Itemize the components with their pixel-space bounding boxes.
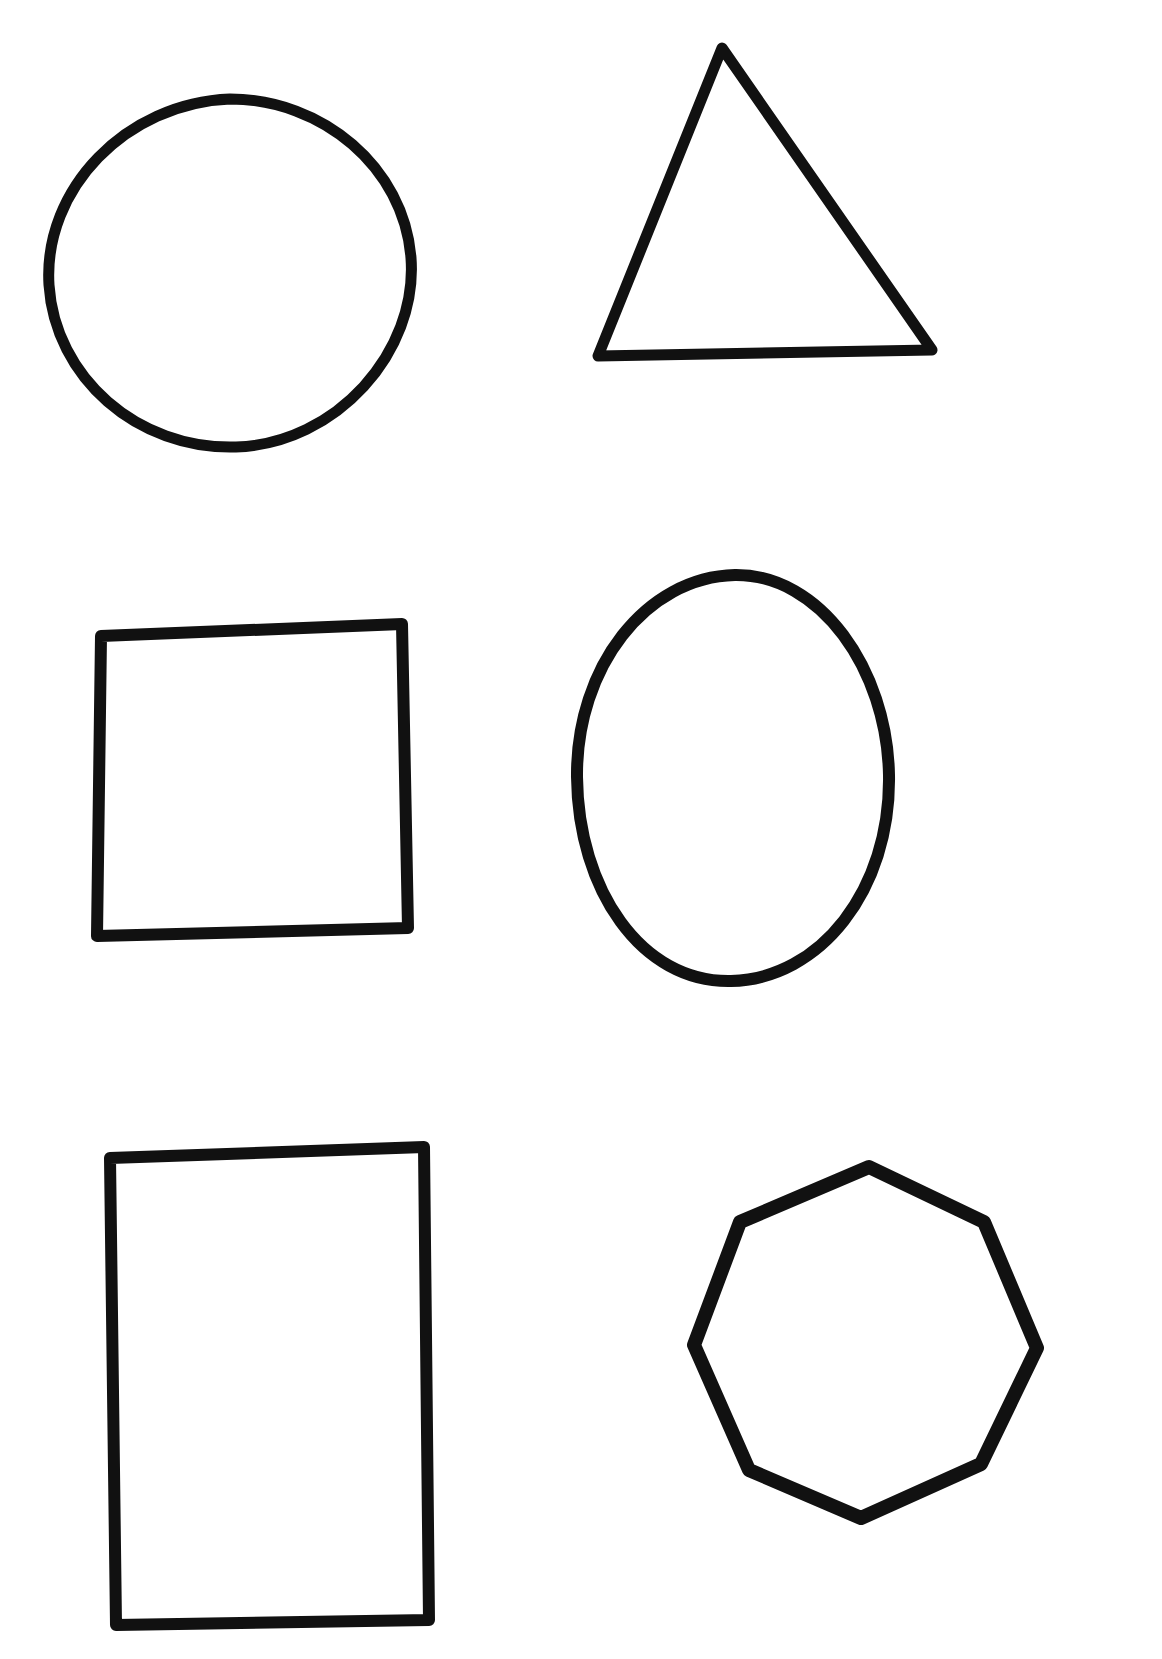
- page-title: Basic Shapes Outline Sheet: [0, 0, 1, 1]
- shapes-canvas: [0, 0, 1162, 1659]
- shapes-worksheet-page: Basic Shapes Outline Sheet Circle Triang…: [0, 0, 1162, 1659]
- shape-index: Basic Shapes Outline Sheet Circle Triang…: [0, 0, 1, 1]
